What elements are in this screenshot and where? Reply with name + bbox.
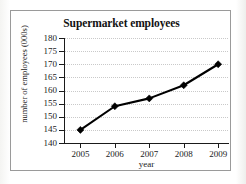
y-tick-mark <box>59 143 64 144</box>
y-tick-mark <box>59 130 64 131</box>
y-tick-mark <box>59 64 64 65</box>
x-axis-title: year <box>64 159 229 169</box>
y-tick-mark <box>59 77 64 78</box>
y-tick-label: 175 <box>11 47 57 56</box>
x-tick-label: 2009 <box>198 149 238 159</box>
gridline <box>64 117 228 118</box>
y-tick-mark <box>59 38 64 39</box>
y-tick-mark <box>59 91 64 92</box>
gridline <box>64 130 228 131</box>
gridline <box>64 38 228 39</box>
chart-title: Supermarket employees <box>11 17 232 29</box>
gridline <box>64 64 228 65</box>
y-axis-line <box>64 38 65 144</box>
y-tick-label: 150 <box>11 112 57 121</box>
x-tick-mark <box>115 143 116 148</box>
y-tick-mark <box>59 51 64 52</box>
y-tick-mark <box>59 104 64 105</box>
y-tick-label: 145 <box>11 125 57 134</box>
gridline <box>64 91 228 92</box>
x-axis-line <box>64 143 229 144</box>
y-tick-mark <box>59 117 64 118</box>
x-tick-mark <box>149 143 150 148</box>
gridlines <box>64 38 228 143</box>
gridline <box>64 104 228 105</box>
y-tick-label: 165 <box>11 73 57 82</box>
x-tick-mark <box>80 143 81 148</box>
y-tick-label: 180 <box>11 34 57 43</box>
chart-figure-frame: Supermarket employees number of employee… <box>10 10 231 171</box>
y-tick-label: 160 <box>11 86 57 95</box>
y-tick-label: 140 <box>11 139 57 148</box>
y-tick-label: 170 <box>11 60 57 69</box>
y-tick-label: 155 <box>11 99 57 108</box>
x-tick-mark <box>184 143 185 148</box>
x-tick-mark <box>218 143 219 148</box>
gridline <box>64 77 228 78</box>
plot-area <box>64 38 228 143</box>
gridline <box>64 51 228 52</box>
screenshot-root: Supermarket employees number of employee… <box>0 0 246 184</box>
